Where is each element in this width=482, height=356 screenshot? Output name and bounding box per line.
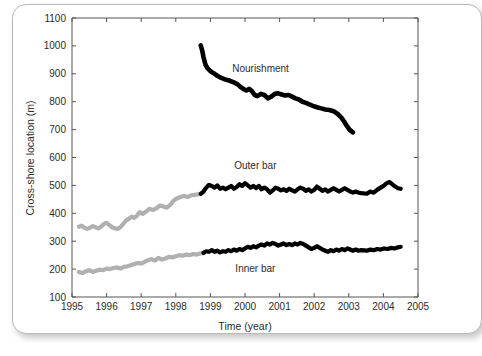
series-line: [201, 45, 353, 132]
x-tick-label: 2001: [268, 301, 291, 312]
series-annotation: Inner bar: [235, 263, 276, 274]
y-tick-label: 1000: [44, 40, 67, 51]
y-tick-label: 800: [49, 96, 66, 107]
series-line: [79, 194, 201, 229]
x-tick-label: 1996: [95, 301, 118, 312]
tick-layer: [72, 18, 418, 297]
x-tick-label: 2000: [234, 301, 257, 312]
y-tick-label: 100: [49, 292, 66, 303]
y-axis-title: Cross-shore location (m): [24, 101, 36, 216]
x-tick-label: 1995: [61, 301, 84, 312]
y-tick-label: 300: [49, 236, 66, 247]
axis-frame: [72, 18, 418, 297]
x-tick-label: 2003: [338, 301, 361, 312]
x-tick-label: 1997: [130, 301, 153, 312]
series-line: [203, 243, 400, 253]
x-tick-label: 1998: [165, 301, 188, 312]
y-tick-label: 400: [49, 208, 66, 219]
y-tick-label: 1100: [44, 13, 66, 24]
series-line: [201, 182, 401, 194]
series-annotation: Outer bar: [234, 160, 277, 171]
y-tick-label: 500: [49, 180, 66, 191]
series-annotation: Nourishment: [232, 63, 289, 74]
y-tick-label: 600: [49, 152, 66, 163]
x-tick-label: 2005: [407, 301, 430, 312]
x-tick-label: 2002: [303, 301, 326, 312]
series-layer: [79, 45, 401, 273]
x-axis-title: Time (year): [218, 320, 271, 332]
x-tick-label: 1999: [199, 301, 222, 312]
y-tick-label: 700: [49, 124, 66, 135]
series-line: [79, 253, 204, 273]
y-tick-label: 200: [49, 264, 66, 275]
y-tick-label: 900: [49, 68, 66, 79]
x-tick-label: 2004: [372, 301, 395, 312]
